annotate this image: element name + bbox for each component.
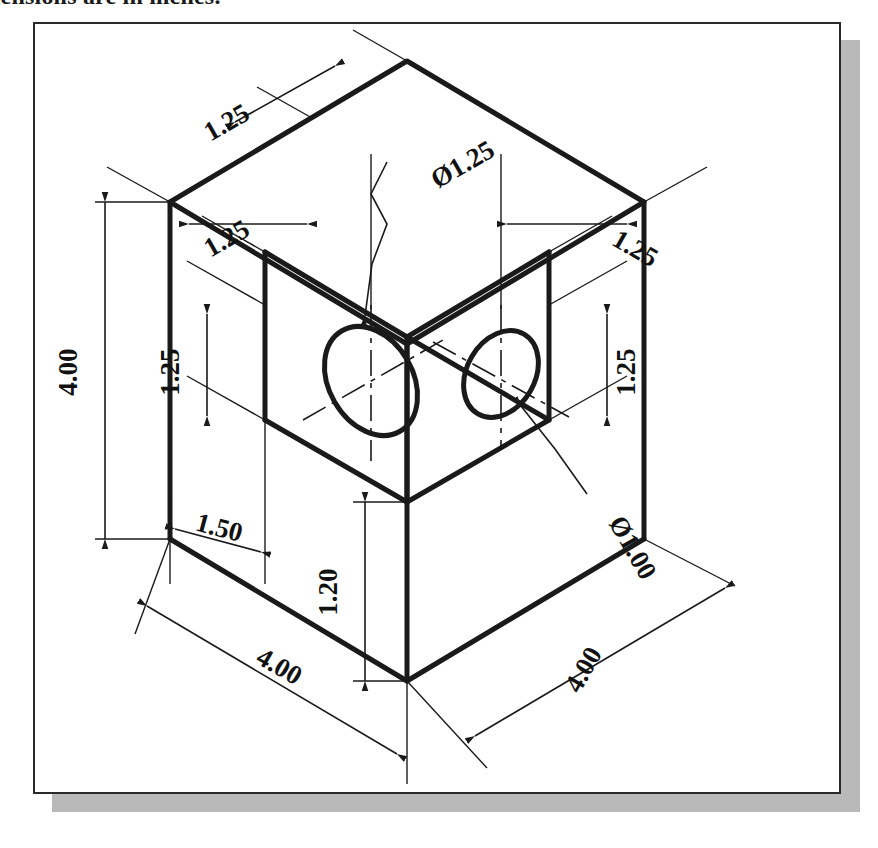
leader-hole-left — [365, 162, 387, 316]
figure-frame: 1.25 1.25 Ø1.25 1.25 4.00 1.25 1.25 1.50… — [33, 22, 841, 794]
caption-strip: Dimensions are in inches. — [0, 0, 878, 14]
leader-hole-right — [521, 406, 587, 494]
ext-topright-a — [644, 167, 707, 202]
drawing-page: Dimensions are in inches. — [0, 0, 878, 848]
ext-bot-left-a — [135, 539, 170, 634]
dimtext-floor-120: 1.20 — [313, 568, 343, 615]
isometric-drawing: 1.25 1.25 Ø1.25 1.25 4.00 1.25 1.25 1.50… — [35, 24, 839, 792]
dimtext-right-hole-125: 1.25 — [611, 348, 641, 395]
caption-text: Dimensions are in inches. — [0, 0, 221, 10]
ext-topleft-a — [107, 167, 170, 202]
dimtext-hole-left-diameter: Ø1.25 — [425, 134, 499, 194]
dimtext-top-back-125: 1.25 — [199, 97, 255, 147]
solid-body-outline — [170, 61, 644, 681]
ext-topback-a — [353, 30, 407, 61]
ext-topback-b — [257, 87, 312, 118]
dimtext-bottom-right-400: 4.00 — [558, 642, 608, 698]
leader-lines — [365, 162, 587, 494]
dimtext-top-right-125: 1.25 — [608, 223, 664, 273]
top-rim-inner — [265, 252, 549, 337]
ext-bot-right-b — [407, 681, 487, 768]
dimline-bottom-left-400 — [147, 606, 397, 754]
dimtext-hole-right-diameter: Ø1.00 — [603, 510, 663, 584]
ext-topright-b — [549, 216, 612, 252]
dimtext-top-left-125: 1.25 — [199, 213, 255, 263]
ext-righthole-top — [549, 261, 627, 305]
ext-lefthole-bot — [187, 376, 265, 420]
dimtext-wall-150: 1.50 — [193, 507, 246, 548]
ext-lefthole-top — [187, 261, 265, 305]
dimtext-overall-height-400: 4.00 — [53, 348, 83, 395]
dimtext-left-hole-125: 1.25 — [155, 348, 185, 395]
